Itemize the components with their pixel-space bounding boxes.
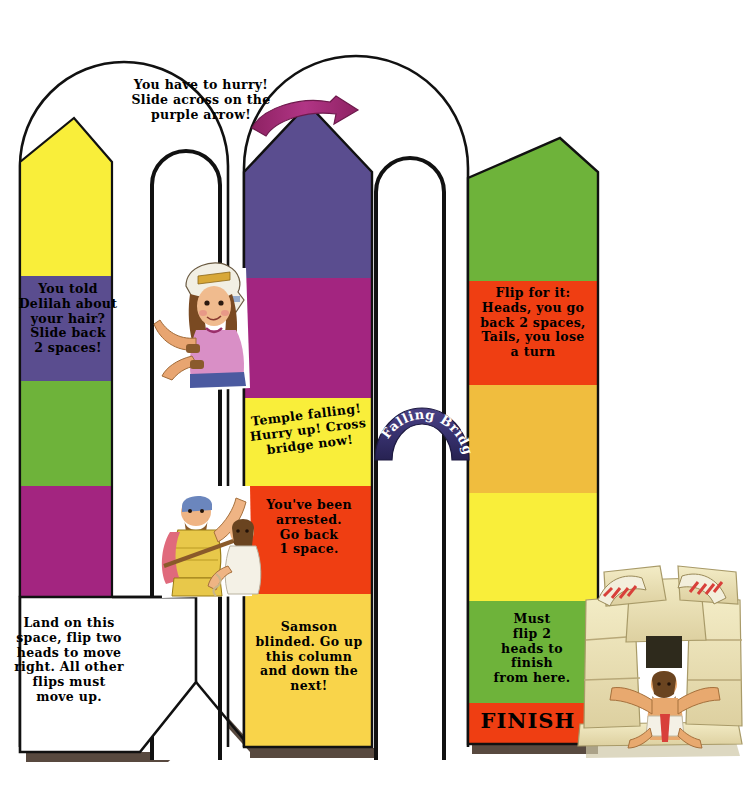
finish-label: FINISH: [466, 709, 590, 734]
right-space-5-label: Must flip 2 heads to finish from here.: [472, 612, 592, 686]
middle-space-4-label: You've been arrested. Go back 1 space.: [250, 498, 368, 557]
right-space-4[interactable]: [468, 493, 598, 601]
right-space-1[interactable]: [468, 138, 598, 281]
game-board: Falling Bridge: [0, 0, 747, 803]
right-space-2-label: Flip for it: Heads, you go back 2 spaces…: [466, 286, 600, 360]
middle-space-2[interactable]: [244, 278, 372, 398]
left-space-3[interactable]: [20, 381, 112, 486]
left-space-2-label: You told Delilah about your hair? Slide …: [16, 282, 120, 356]
samson-arrested-figure: [158, 486, 261, 598]
middle-space-5-label: Samson blinded. Go up this column and do…: [246, 620, 372, 694]
right-space-3[interactable]: [468, 385, 598, 493]
left-space-5-label: Land on this space, flip two heads to mo…: [10, 616, 128, 705]
samson-pillars-figure: [578, 566, 742, 758]
hurry-note: You have to hurry! Slide across on the p…: [108, 78, 294, 122]
left-space-4[interactable]: [20, 486, 112, 597]
